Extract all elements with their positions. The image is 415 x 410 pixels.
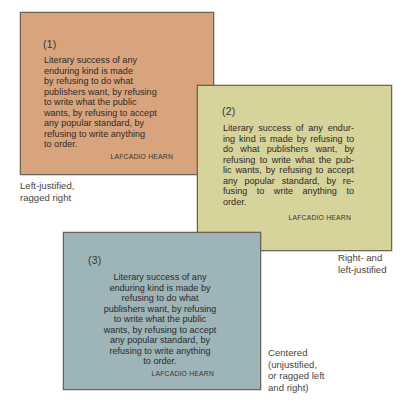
quote-line: to order. — [64, 356, 256, 367]
quote-line: any popular standard, by re- — [223, 176, 354, 187]
quote-text: Literary success of any enduring kind is… — [64, 272, 256, 367]
caption-line: (unjustified, — [268, 359, 325, 371]
quote-text: Literary success of any enduring kind is… — [44, 55, 157, 150]
caption-line: left-justified — [338, 264, 387, 276]
quote-line: wants, by refusing to accept — [44, 108, 157, 119]
quote-author: LAFCADIO HEARN — [111, 153, 173, 160]
caption-line: and right) — [268, 382, 325, 394]
quote-line: to write what the public — [64, 314, 256, 325]
caption-left-justified: Left-justified, ragged right — [20, 180, 74, 203]
caption-line: or ragged left — [268, 370, 325, 382]
caption-justified: Right- and left-justified — [338, 252, 387, 275]
quote-line: Literary success of any endur- — [223, 123, 354, 134]
quote-line: refusing to write what the pub- — [223, 155, 354, 166]
quote-line: any popular standard, by — [44, 118, 157, 129]
sample-number: (2) — [222, 105, 235, 117]
quote-line: Literary success of any — [64, 272, 256, 283]
quote-line: enduring kind is made by — [64, 283, 256, 294]
quote-line: fusing to write anything to — [223, 186, 354, 197]
quote-line: refusing to do what — [64, 293, 256, 304]
sample-number: (3) — [88, 254, 101, 266]
centered-sample-card: (3) Literary success of any enduring kin… — [63, 232, 261, 390]
quote-line: lic wants, by refusing to accept — [223, 165, 354, 176]
quote-line: publishers want, by refusing — [44, 87, 157, 98]
quote-line: to write what the public — [44, 97, 157, 108]
quote-line: refusing to write anything — [64, 346, 256, 357]
quote-line: by refusing to do what — [44, 76, 157, 87]
quote-line: do what publishers want, by — [223, 144, 354, 155]
quote-author: LAFCADIO HEARN — [152, 370, 214, 377]
quote-line: to order. — [44, 139, 157, 150]
caption-line: Centered — [268, 347, 325, 359]
quote-line: enduring kind is made — [44, 66, 157, 77]
quote-line: any popular standard, by — [64, 335, 256, 346]
quote-line: Literary success of any — [44, 55, 157, 66]
quote-text: Literary success of any endur- ing kind … — [223, 123, 354, 207]
quote-line: publishers want, by refusing — [64, 304, 256, 315]
quote-author: LAFCADIO HEARN — [289, 214, 351, 221]
left-justified-sample-card: (1) Literary success of any enduring kin… — [20, 12, 214, 175]
quote-line: wants, by refusing to accept — [64, 325, 256, 336]
caption-line: ragged right — [20, 192, 74, 204]
quote-line: refusing to write anything — [44, 129, 157, 140]
caption-centered: Centered (unjustified, or ragged left an… — [268, 347, 325, 393]
justified-sample-card: (2) Literary success of any endur- ing k… — [197, 85, 392, 251]
caption-line: Right- and — [338, 252, 387, 264]
caption-line: Left-justified, — [20, 180, 74, 192]
quote-line: ing kind is made by refusing to — [223, 134, 354, 145]
sample-number: (1) — [43, 38, 56, 50]
quote-line: order. — [223, 197, 354, 208]
